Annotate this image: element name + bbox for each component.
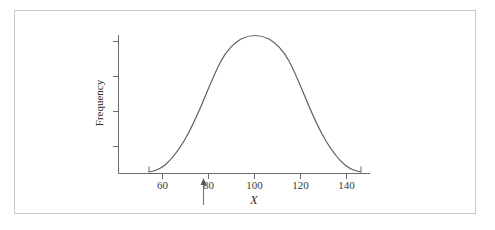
x-tick-label-120: 120	[292, 179, 309, 191]
x-tick-label-100: 100	[246, 179, 263, 191]
figure-root: 60 80 100 120 140 X Frequency	[0, 0, 495, 230]
x-tick-label-140: 140	[338, 179, 355, 191]
normal-distribution-curve	[149, 36, 361, 173]
frequency-distribution-chart: 60 80 100 120 140 X Frequency	[0, 0, 495, 230]
x-tick-label-60: 60	[157, 179, 169, 191]
x-axis-title: X	[249, 193, 258, 207]
y-axis-ticks	[113, 42, 119, 147]
y-axis-title: Frequency	[93, 79, 105, 126]
